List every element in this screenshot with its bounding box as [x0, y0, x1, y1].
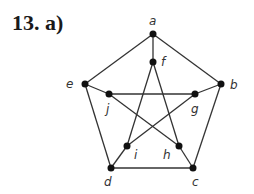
node-label-a: a [149, 14, 156, 28]
edge-f-i [127, 62, 153, 146]
edge-e-j [85, 84, 109, 94]
edge-g-i [127, 94, 195, 146]
edge-j-h [109, 94, 179, 146]
node-h [176, 143, 183, 150]
edge-b-g [195, 84, 221, 94]
node-b [218, 81, 225, 88]
node-i [124, 143, 131, 150]
node-c [190, 165, 197, 172]
edge-i-d [111, 146, 127, 168]
node-a [150, 31, 157, 38]
node-label-d: d [104, 175, 112, 189]
node-e [82, 81, 89, 88]
edge-a-e [85, 34, 153, 84]
node-label-f: f [161, 55, 167, 69]
node-label-h: h [163, 148, 171, 162]
node-label-c: c [192, 175, 199, 189]
node-label-j: j [104, 102, 110, 116]
node-label-g: g [191, 102, 199, 116]
petersen-graph: afebjgihdc [0, 0, 254, 194]
node-f [150, 59, 157, 66]
node-label-i: i [134, 148, 138, 162]
edge-h-c [179, 146, 193, 168]
node-label-e: e [66, 77, 73, 91]
node-j [106, 91, 113, 98]
node-d [108, 165, 115, 172]
node-label-b: b [230, 78, 238, 92]
node-g [192, 91, 199, 98]
edge-f-h [153, 62, 179, 146]
